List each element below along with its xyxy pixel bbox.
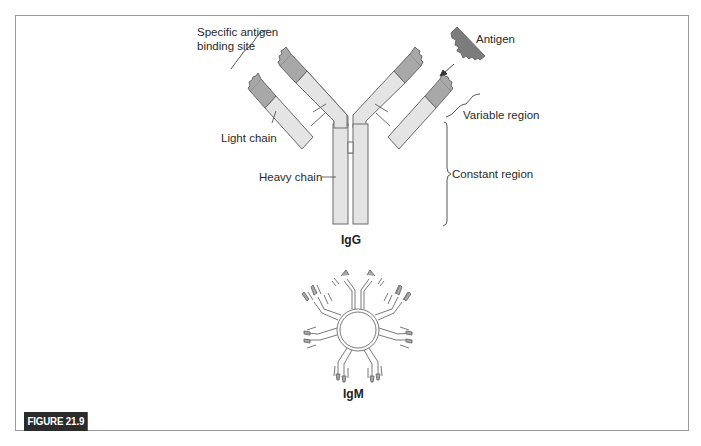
heavy-chain-label: Heavy chain (259, 171, 322, 183)
light-chain-label: Light chain (221, 132, 277, 144)
figure-label: FIGURE 21.9 (24, 412, 88, 431)
heavy-chain-right (353, 47, 423, 224)
binding-site-label-line1: Specific antigen (197, 26, 278, 38)
constant-region-brace (443, 122, 451, 226)
antibody-diagram: Specific antigen binding site Light chai… (0, 0, 701, 446)
igg-title: IgG (341, 233, 361, 247)
binding-site-label-line2: binding site (197, 40, 255, 52)
igm-title: IgM (343, 387, 364, 401)
igg-structure (248, 27, 485, 224)
heavy-chain-left (278, 47, 348, 224)
antigen-label: Antigen (476, 33, 515, 45)
antigen-arrow (440, 64, 454, 76)
variable-region-label: Variable region (463, 109, 540, 121)
constant-region-label: Constant region (452, 168, 533, 180)
igm-structure (302, 270, 412, 382)
